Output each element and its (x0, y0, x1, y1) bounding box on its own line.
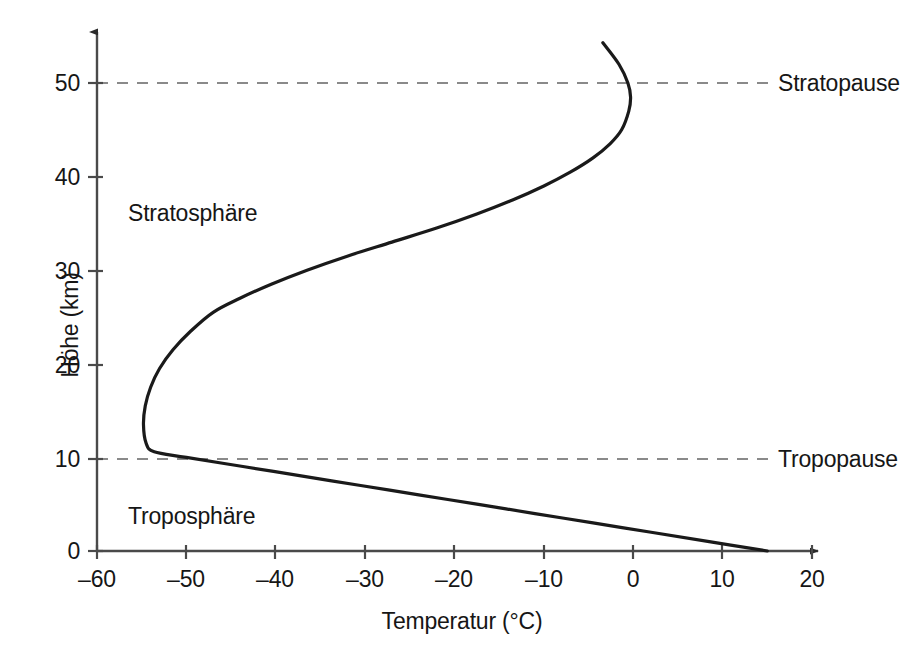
chart-plot-area (0, 0, 924, 649)
temperature-profile-chart: –60 –50 –40 –30 –20 –10 0 10 20 0 10 20 … (0, 0, 924, 649)
y-axis-title: Höhe (km) (57, 272, 84, 378)
x-tick-label-20: 20 (799, 566, 824, 593)
troposphere-layer-label: Troposphäre (128, 503, 255, 530)
y-axis-ticks (88, 83, 103, 551)
tropopause-boundary-label: Tropopause (778, 446, 898, 473)
y-tick-label-0: 0 (38, 538, 80, 565)
temperature-profile-curve (143, 43, 767, 551)
y-tick-label-10: 10 (38, 446, 80, 473)
x-tick-label-minus30: –30 (346, 566, 384, 593)
x-tick-label-10: 10 (709, 566, 734, 593)
stratopause-boundary-label: Stratopause (778, 70, 900, 97)
y-tick-label-50: 50 (38, 70, 80, 97)
x-axis-title: Temperatur (°C) (382, 608, 543, 635)
stratosphere-layer-label: Stratosphäre (128, 200, 257, 227)
x-tick-label-0: 0 (627, 566, 640, 593)
x-tick-label-minus60: –60 (78, 566, 116, 593)
y-tick-label-40: 40 (38, 164, 80, 191)
x-tick-label-minus20: –20 (435, 566, 473, 593)
x-tick-label-minus40: –40 (256, 566, 294, 593)
x-tick-label-minus50: –50 (167, 566, 205, 593)
x-tick-label-minus10: –10 (525, 566, 563, 593)
